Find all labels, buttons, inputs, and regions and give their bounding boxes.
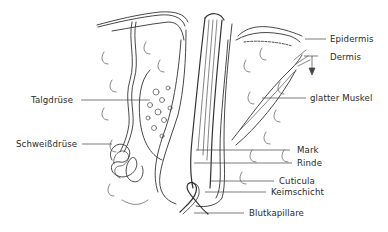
follicle-outer-left bbox=[160, 30, 186, 204]
label-blutkapillare: Blutkapillare bbox=[249, 208, 304, 218]
label-epidermis: Epidermis bbox=[330, 34, 374, 44]
sweat-gland-duct bbox=[120, 22, 132, 152]
blood-capillary-loop bbox=[180, 182, 208, 214]
sweat-gland-coil bbox=[110, 144, 143, 182]
label-talgdruese: Talgdrüse bbox=[31, 95, 73, 105]
label-glatter-muskel: glatter Muskel bbox=[310, 93, 372, 103]
skin-hair-diagram: Epidermis Dermis Talgdrüse glatter Muske… bbox=[0, 0, 388, 232]
label-keimschicht: Keimschicht bbox=[271, 187, 324, 197]
label-rinde: Rinde bbox=[297, 158, 322, 168]
hair-shaft-left bbox=[191, 18, 205, 188]
dermis-arrow-icon bbox=[309, 68, 315, 75]
label-cuticula: Cuticula bbox=[279, 176, 315, 186]
label-dermis: Dermis bbox=[330, 52, 361, 62]
label-mark: Mark bbox=[297, 145, 319, 155]
label-schweissdruese: Schweißdrüse bbox=[16, 139, 77, 149]
